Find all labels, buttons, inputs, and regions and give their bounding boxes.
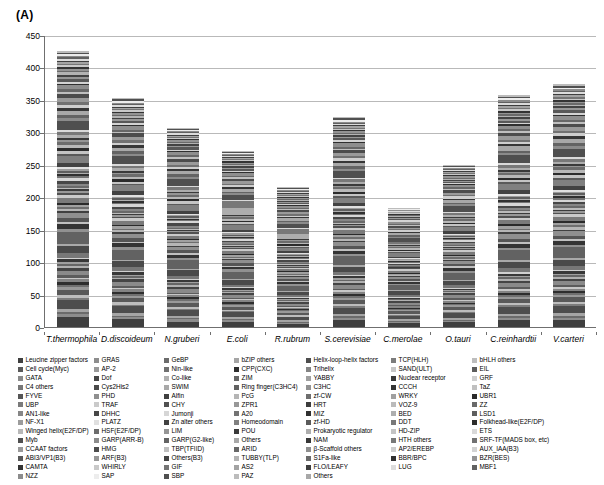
legend-item[interactable]: ZIM bbox=[234, 374, 306, 383]
legend-item[interactable]: Alfin bbox=[164, 392, 234, 401]
legend-item[interactable]: NZZ bbox=[18, 472, 94, 481]
legend-item[interactable]: Others bbox=[234, 436, 306, 445]
legend-item[interactable]: MBF1 bbox=[472, 463, 592, 472]
legend-item[interactable]: Co-like bbox=[164, 374, 234, 383]
legend-item[interactable]: DDT bbox=[391, 418, 472, 427]
legend-item[interactable]: Prokaryotic regulator bbox=[306, 427, 391, 436]
legend-item[interactable]: MIZ bbox=[306, 409, 391, 418]
legend-item[interactable]: Trihelix bbox=[306, 365, 391, 374]
legend-item[interactable]: EIL bbox=[472, 365, 592, 374]
stacked-bar[interactable] bbox=[388, 208, 420, 327]
legend-item[interactable]: TaZ bbox=[472, 383, 592, 392]
legend-item[interactable]: Folkhead-like(E2F/DP) bbox=[472, 418, 592, 427]
stacked-bar[interactable] bbox=[498, 95, 530, 327]
legend-item[interactable]: AS2 bbox=[234, 463, 306, 472]
legend-item[interactable]: SRF-TF(MADS box, etc) bbox=[472, 436, 592, 445]
legend-item[interactable]: LUG bbox=[391, 463, 472, 472]
legend-item[interactable]: bHLH others bbox=[472, 356, 592, 365]
legend-item[interactable]: ARID bbox=[234, 445, 306, 454]
legend-item[interactable]: VOZ-9 bbox=[391, 400, 472, 409]
legend-item[interactable]: C3HC bbox=[306, 383, 391, 392]
stacked-bar[interactable] bbox=[112, 98, 144, 327]
legend-item[interactable]: LSD1 bbox=[472, 409, 592, 418]
stacked-bar[interactable] bbox=[222, 151, 254, 327]
legend-item[interactable]: ZPR1 bbox=[234, 400, 306, 409]
legend-item[interactable]: BED bbox=[391, 409, 472, 418]
legend-item[interactable]: AP2/EREBP bbox=[391, 445, 472, 454]
stacked-bar[interactable] bbox=[277, 187, 309, 327]
legend-item[interactable]: PHD bbox=[94, 392, 164, 401]
legend-item[interactable]: GRF bbox=[472, 374, 592, 383]
legend-item[interactable]: PcG bbox=[234, 392, 306, 401]
legend-item[interactable]: FYVE bbox=[18, 392, 94, 401]
legend-item[interactable]: A20 bbox=[234, 409, 306, 418]
legend-item[interactable]: SAND(ULT) bbox=[391, 365, 472, 374]
legend-item[interactable]: BZR(BES) bbox=[472, 454, 592, 463]
stacked-bar[interactable] bbox=[167, 128, 199, 327]
legend-item[interactable]: ARF(B3) bbox=[94, 454, 164, 463]
legend-item[interactable]: ZZ bbox=[472, 400, 592, 409]
legend-item[interactable]: CCCH bbox=[391, 383, 472, 392]
legend-item[interactable]: SBP bbox=[164, 472, 234, 481]
legend-item[interactable]: Winged helix(E2F/DP) bbox=[18, 427, 94, 436]
legend-item[interactable]: ABI3/VP1(B3) bbox=[18, 454, 94, 463]
legend-item[interactable]: C4 others bbox=[18, 383, 94, 392]
legend-item[interactable]: Nuclear receptor bbox=[391, 374, 472, 383]
legend-item[interactable]: S1Fa-like bbox=[306, 454, 391, 463]
stacked-bar[interactable] bbox=[443, 165, 475, 327]
legend-item[interactable]: Homeodomain bbox=[234, 418, 306, 427]
legend-item[interactable]: PAZ bbox=[234, 472, 306, 481]
legend-item[interactable]: FLO/LEAFY bbox=[306, 463, 391, 472]
legend-item[interactable]: CCAAT factors bbox=[18, 445, 94, 454]
legend-item[interactable]: Leucine zipper factors bbox=[18, 356, 94, 365]
legend-item[interactable]: GATA bbox=[18, 374, 94, 383]
legend-item[interactable]: AP-2 bbox=[94, 365, 164, 374]
legend-item[interactable]: AN1-like bbox=[18, 409, 94, 418]
legend-item[interactable]: GRAS bbox=[94, 356, 164, 365]
legend-item[interactable]: CAMTA bbox=[18, 463, 94, 472]
legend-item[interactable]: bZIP others bbox=[234, 356, 306, 365]
legend-item[interactable]: CPP(CXC) bbox=[234, 365, 306, 374]
legend-item[interactable]: Zn alter others bbox=[164, 418, 234, 427]
legend-item[interactable]: BBR/BPC bbox=[391, 454, 472, 463]
legend-item[interactable]: HSF(E2F/DP) bbox=[94, 427, 164, 436]
legend-item[interactable]: YABBY bbox=[306, 374, 391, 383]
legend-item[interactable]: POU bbox=[234, 427, 306, 436]
legend-item[interactable]: AUX_IAA(B3) bbox=[472, 445, 592, 454]
legend-item[interactable]: TBP(TFIID) bbox=[164, 445, 234, 454]
legend-item[interactable]: SWIM bbox=[164, 383, 234, 392]
legend-item[interactable]: β-Scaffold others bbox=[306, 445, 391, 454]
legend-item[interactable]: ETS bbox=[472, 427, 592, 436]
legend-item[interactable]: GIF bbox=[164, 463, 234, 472]
legend-item[interactable]: UBP bbox=[18, 400, 94, 409]
legend-item[interactable]: LIM bbox=[164, 427, 234, 436]
legend-item[interactable]: zf-CW bbox=[306, 392, 391, 401]
legend-item[interactable]: Myb bbox=[18, 436, 94, 445]
legend-item[interactable]: PLATZ bbox=[94, 418, 164, 427]
legend-item[interactable]: WHIRLY bbox=[94, 463, 164, 472]
legend-item[interactable]: TRAF bbox=[94, 400, 164, 409]
legend-item[interactable]: GeBP bbox=[164, 356, 234, 365]
legend-item[interactable]: SAP bbox=[94, 472, 164, 481]
legend-item[interactable]: Others bbox=[306, 472, 391, 481]
legend-item[interactable]: zf-HD bbox=[306, 418, 391, 427]
stacked-bar[interactable] bbox=[57, 51, 89, 327]
legend-item[interactable]: Helix-loop-helix factors bbox=[306, 356, 391, 365]
legend-item[interactable]: Nin-like bbox=[164, 365, 234, 374]
legend-item[interactable]: HMG bbox=[94, 445, 164, 454]
legend-item[interactable]: CHY bbox=[164, 400, 234, 409]
legend-item[interactable]: TUBBY(TLP) bbox=[234, 454, 306, 463]
stacked-bar[interactable] bbox=[333, 117, 365, 327]
legend-item[interactable]: WRKY bbox=[391, 392, 472, 401]
legend-item[interactable]: HTH others bbox=[391, 436, 472, 445]
legend-item[interactable]: Ring finger(C3HC4) bbox=[234, 383, 306, 392]
legend-item[interactable]: HD-ZIP bbox=[391, 427, 472, 436]
legend-item[interactable]: NAM bbox=[306, 436, 391, 445]
legend-item[interactable]: DHHC bbox=[94, 409, 164, 418]
legend-item[interactable]: GARP(ARR-B) bbox=[94, 436, 164, 445]
stacked-bar[interactable] bbox=[553, 84, 585, 327]
legend-item[interactable]: HRT bbox=[306, 400, 391, 409]
legend-item[interactable]: Dof bbox=[94, 374, 164, 383]
legend-item[interactable]: Others(B3) bbox=[164, 454, 234, 463]
legend-item[interactable]: UBR1 bbox=[472, 392, 592, 401]
